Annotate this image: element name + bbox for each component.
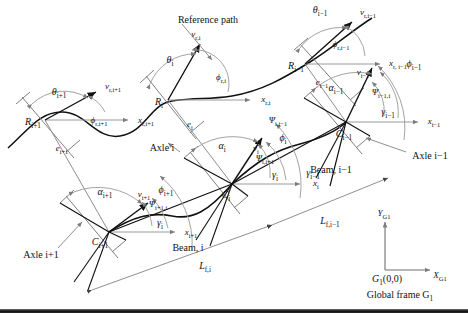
axle-i-minus-1-leader — [366, 138, 406, 152]
bottom-rule — [0, 309, 468, 313]
global-frame-axes — [385, 222, 430, 270]
diagram-vector-layer — [0, 0, 468, 313]
link-length-lines — [92, 178, 388, 290]
axle-lines — [16, 38, 370, 258]
figure-canvas: Reference path Ri+1 Ri Ri−1 Ci+1 Ci Ci−1… — [0, 0, 468, 313]
hub-spokes-c-i-plus-1 — [60, 203, 126, 290]
axle-i-leader — [168, 143, 180, 152]
axle-i-plus-1-leader — [58, 222, 82, 248]
hub-spokes-c-i-minus-1 — [304, 98, 370, 186]
